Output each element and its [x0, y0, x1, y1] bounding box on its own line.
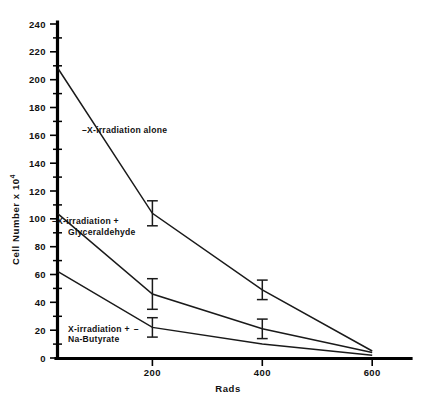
x-tick-label: 600	[364, 367, 381, 378]
y-tick-label: 160	[29, 130, 46, 141]
y-tick-label: 60	[35, 269, 46, 280]
svg-text:Cell Number x 104: Cell Number x 104	[9, 174, 21, 265]
error-bar	[147, 201, 158, 226]
y-tick-label: 40	[35, 297, 46, 308]
error-bar	[147, 279, 158, 310]
y-tick-label: 20	[35, 325, 46, 336]
svg-text:–X-irradiation +: –X-irradiation +	[52, 216, 119, 226]
y-tick-label: 0	[40, 353, 46, 364]
axis-lines	[56, 22, 411, 359]
annotation-x-irradiation-glyceraldehyde: –X-irradiation + Glyceraldehyde	[52, 216, 136, 237]
y-tick-label: 140	[29, 158, 46, 169]
annotation-text: X-irradiation alone	[87, 125, 167, 135]
series-line	[58, 69, 372, 352]
annotation-text-line1: X-irradiation +	[68, 324, 130, 334]
annotation-text-line1: X-irradiation +	[57, 216, 119, 226]
y-tick-label: 80	[35, 241, 46, 252]
y-axis-title-exponent: 4	[9, 174, 16, 178]
y-tick-label: 120	[29, 186, 46, 197]
x-axis-title: Rads	[215, 383, 241, 394]
x-tick-label: 400	[254, 367, 271, 378]
annotation-text-line2: Na-Butyrate	[68, 334, 119, 344]
y-axis-title: Cell Number x 104	[9, 174, 21, 265]
y-tick-label: 180	[29, 102, 46, 113]
x-axis-tick-labels: 200 400 600	[144, 367, 381, 378]
figure-container: 240 220 200 180 160 140 120 100 80 60 40…	[0, 0, 423, 398]
y-tick-label: 220	[29, 46, 46, 57]
y-tick-label: 100	[29, 213, 46, 224]
x-tick-label: 200	[144, 367, 161, 378]
y-axis-tick-labels: 240 220 200 180 160 140 120 100 80 60 40…	[29, 19, 46, 364]
error-bar	[257, 280, 268, 300]
svg-text:X-irradiation +–: X-irradiation +–	[68, 324, 139, 334]
annotation-x-irradiation-na-butyrate: X-irradiation +– Na-Butyrate	[68, 324, 139, 344]
annotation-text-line2: Glyceraldehyde	[68, 227, 136, 237]
annotation-x-irradiation-alone: –X-irradiation alone	[82, 125, 167, 135]
annotation-dash: –	[134, 324, 139, 334]
y-tick-label: 200	[29, 74, 46, 85]
svg-text:–X-irradiation alone: –X-irradiation alone	[82, 125, 167, 135]
line-chart: 240 220 200 180 160 140 120 100 80 60 40…	[0, 0, 423, 398]
series-x-irradiation-alone	[58, 69, 372, 352]
y-tick-label: 240	[29, 19, 46, 30]
y-axis-title-main: Cell Number x 10	[10, 178, 21, 265]
